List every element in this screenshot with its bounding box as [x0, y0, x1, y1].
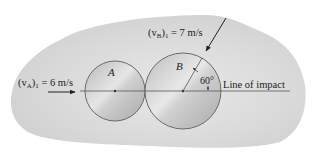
disk-b-label: B [176, 60, 183, 72]
disk-a-label: A [107, 66, 115, 78]
angle-label: 60° [200, 75, 214, 86]
collision-diagram: A B Line of impact 60° (vB)1 = 7 m/s (vA… [0, 0, 314, 152]
line-of-impact-label: Line of impact [223, 79, 285, 90]
